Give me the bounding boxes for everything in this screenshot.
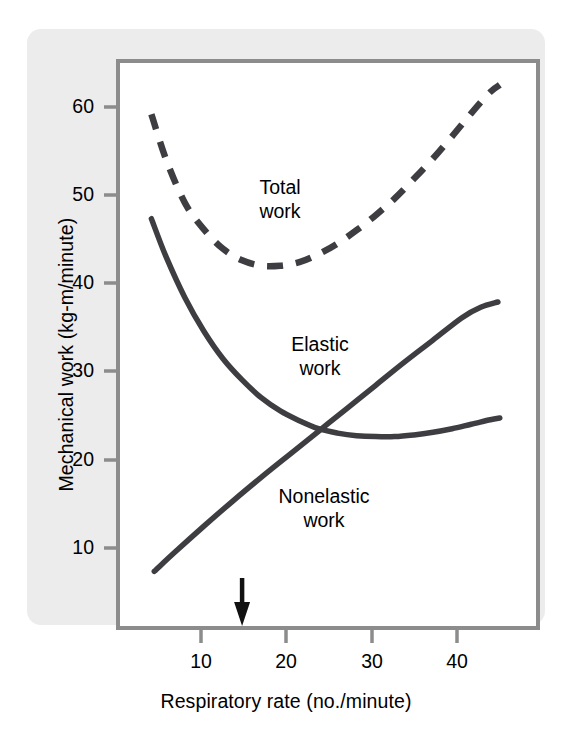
x-tick-label-30: 30 — [350, 650, 394, 673]
x-axis-title: Respiratory rate (no./minute) — [0, 690, 572, 713]
figure-container: 60 50 40 30 20 10 10 20 30 40 Mechanical… — [0, 0, 572, 739]
curve-label-elastic-work: Elastic work — [258, 333, 382, 381]
curve-label-total-work: Total work — [222, 176, 338, 224]
y-tick-label-60: 60 — [46, 95, 94, 118]
x-tick-label-10: 10 — [179, 650, 223, 673]
curve-label-total-work-line2: work — [222, 200, 338, 224]
x-tick-label-40: 40 — [435, 650, 479, 673]
y-axis-ticks — [104, 107, 118, 548]
curve-label-nonelastic-work-line2: work — [244, 509, 404, 533]
curve-label-nonelastic-work-line1: Nonelastic — [244, 485, 404, 509]
curve-label-elastic-work-line2: work — [258, 357, 382, 381]
y-tick-label-50: 50 — [46, 183, 94, 206]
x-axis-ticks — [201, 628, 457, 643]
x-tick-label-20: 20 — [264, 650, 308, 673]
curve-label-total-work-line1: Total — [222, 176, 338, 200]
y-tick-label-10: 10 — [46, 536, 94, 559]
y-axis-title: Mechanical work (kg-m/minute) — [55, 222, 78, 492]
curve-label-elastic-work-line1: Elastic — [258, 333, 382, 357]
curve-label-nonelastic-work: Nonelastic work — [244, 485, 404, 533]
